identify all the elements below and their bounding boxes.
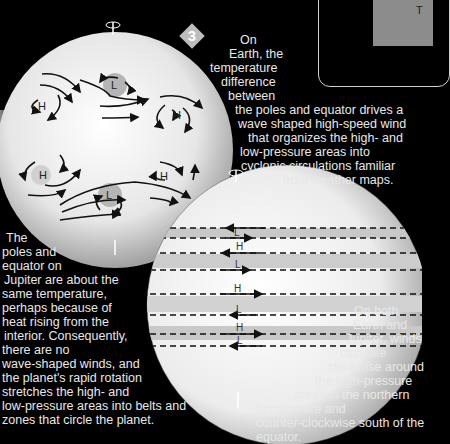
- both-caption-line: the high-pressure: [315, 374, 412, 388]
- earth-caption-line: between: [228, 89, 275, 103]
- band-label-6: H: [236, 322, 243, 333]
- jupiter-caption-line: Jupiter are about the: [4, 273, 119, 287]
- north-high-left-label: H: [38, 100, 46, 112]
- jupiter-caption-line: zones that circle the planet.: [2, 413, 154, 427]
- earth-caption-line: wave shaped high-speed wind: [238, 117, 406, 131]
- band-label-2: H: [236, 241, 243, 252]
- north-high-right-label: H: [173, 109, 181, 121]
- jupiter-caption-line: the planet's rapid rotation: [2, 371, 142, 385]
- jupiter-caption-line: interior. Consequently,: [4, 329, 127, 343]
- step-number: 3: [183, 26, 201, 46]
- earth-caption-line: from weather maps.: [283, 173, 393, 187]
- jupiter-caption-line: poles and: [2, 245, 56, 259]
- both-caption-line: circulate: [340, 346, 387, 360]
- both-caption-line: equator.: [256, 430, 301, 444]
- earth-caption-line: low-pressure areas into: [240, 145, 370, 159]
- earth-caption-line: On: [240, 33, 257, 47]
- earth-caption-line: Earth, the: [229, 47, 283, 61]
- both-caption-line: On both: [354, 304, 398, 318]
- jupiter-caption-line: same temperature,: [2, 287, 107, 301]
- both-caption-line: counter-clockwise south of the: [256, 416, 424, 430]
- earth-caption-line: temperature: [210, 61, 277, 75]
- jupiter-caption-line: The: [6, 231, 28, 245]
- band-label-1: L: [234, 227, 240, 238]
- band-label-3: L: [235, 259, 241, 270]
- north-low-label: L: [111, 79, 117, 91]
- south-low-label: L: [106, 189, 112, 201]
- south-high-right-label: H: [160, 170, 168, 182]
- band-label-4: H: [234, 283, 241, 294]
- jupiter-caption-line: low-pressure areas into belts and: [2, 399, 186, 413]
- jupiter-caption-line: there are no: [2, 343, 69, 357]
- both-caption-line: Jupiter, winds: [346, 332, 422, 346]
- jupiter-caption-line: wave-shaped winds, and: [2, 357, 140, 371]
- band-label-7: L: [237, 335, 243, 346]
- jupiter-caption-line: stretches the high- and: [2, 385, 129, 399]
- earth-caption-line: the poles and equator drives a: [235, 103, 403, 117]
- both-caption-line: areas in the northern: [294, 388, 409, 402]
- both-caption-line: Earth and: [353, 318, 407, 332]
- earth-caption-line: that organizes the high- and: [248, 131, 403, 145]
- jupiter-caption-line: equator on: [2, 259, 62, 273]
- both-caption-line: clockwise around: [328, 360, 424, 374]
- jupiter-caption-line: perhaps because of: [2, 301, 112, 315]
- earth-caption-line: difference: [221, 75, 276, 89]
- south-high-left-label: H: [39, 169, 47, 181]
- both-caption-line: hemisphere and: [256, 402, 346, 416]
- earth-caption-line: cyclonic circulations familiar: [241, 159, 395, 173]
- jupiter-caption-line: heat rising from the: [2, 315, 109, 329]
- band-label-5: L: [236, 304, 242, 315]
